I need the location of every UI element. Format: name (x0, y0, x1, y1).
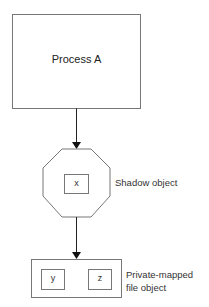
page-label-y: y (41, 274, 65, 283)
shadow-object-label: Shadow object (115, 178, 177, 188)
file-object-label: Private-mapped file object (126, 268, 193, 294)
arrow-process-to-shadow (72, 109, 81, 150)
file-object-label-line-2: file object (126, 281, 193, 294)
file-object-label-line-1: Private-mapped (126, 268, 193, 281)
arrowhead-icon (72, 142, 81, 149)
page-label-z: z (88, 274, 112, 283)
process-label: Process A (12, 54, 141, 65)
arrow-shadow-to-file (72, 217, 81, 259)
arrowhead-icon (72, 252, 81, 259)
page-label-x: x (64, 179, 89, 188)
diagram-canvas (0, 0, 209, 307)
